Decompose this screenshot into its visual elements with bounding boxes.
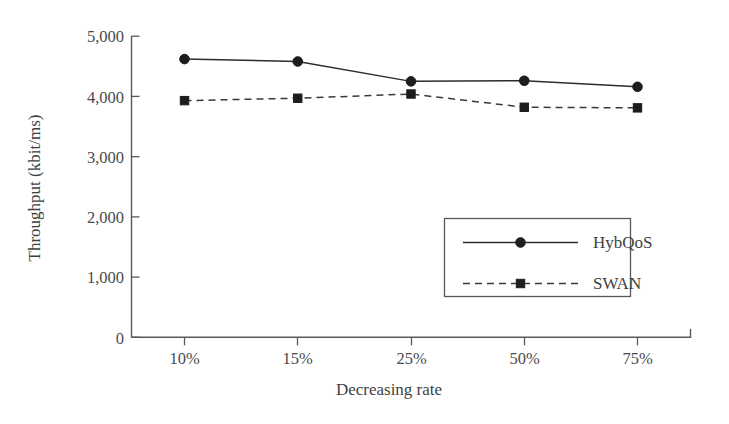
legend: HybQoS SWAN (445, 219, 653, 297)
series-swan (180, 90, 641, 112)
x-tick-label-0: 10% (169, 349, 200, 368)
y-tick-label-0: 0 (116, 329, 124, 348)
data-point-swan-15% (294, 94, 302, 102)
x-tick-label-1: 15% (282, 349, 313, 368)
y-axis-tick-labels: 0 1,000 2,000 3,000 4,000 5,000 (87, 27, 124, 347)
legend-label-swan: SWAN (593, 274, 641, 293)
x-tick-label-3: 50% (509, 349, 540, 368)
data-point-hybqos-50% (519, 76, 529, 86)
x-tick-label-4: 75% (622, 349, 653, 368)
data-point-hybqos-25% (406, 77, 416, 87)
legend-marker-swan (516, 279, 524, 287)
plot-series-layer (180, 54, 643, 112)
y-axis-title: Throughput (kbit/ms) (25, 115, 44, 262)
throughput-line-chart: Throughput (kbit/ms) 0 1,000 2,000 3,000… (0, 0, 729, 424)
data-point-swan-10% (180, 96, 188, 104)
data-point-hybqos-15% (293, 57, 303, 67)
data-point-swan-25% (407, 90, 415, 98)
y-tick-label-1000: 1,000 (87, 268, 124, 287)
legend-marker-hybqos (516, 238, 526, 248)
chart-svg: Throughput (kbit/ms) 0 1,000 2,000 3,000… (0, 0, 729, 424)
data-point-swan-50% (520, 103, 528, 111)
data-point-swan-75% (633, 104, 641, 112)
y-tick-label-5000: 5,000 (87, 27, 124, 46)
data-point-hybqos-10% (180, 54, 190, 64)
y-tick-label-3000: 3,000 (87, 148, 124, 167)
series-hybqos (180, 54, 643, 91)
legend-label-hybqos: HybQoS (593, 233, 653, 252)
x-tick-label-2: 25% (396, 349, 427, 368)
x-axis-tick-labels: 10% 15% 25% 50% 75% (169, 349, 653, 368)
data-point-hybqos-75% (633, 82, 643, 92)
x-axis-title: Decreasing rate (336, 380, 442, 399)
x-axis-line (132, 329, 691, 337)
y-tick-label-4000: 4,000 (87, 88, 124, 107)
y-axis-ticks (132, 36, 140, 337)
x-axis-ticks (185, 337, 638, 345)
y-tick-label-2000: 2,000 (87, 208, 124, 227)
